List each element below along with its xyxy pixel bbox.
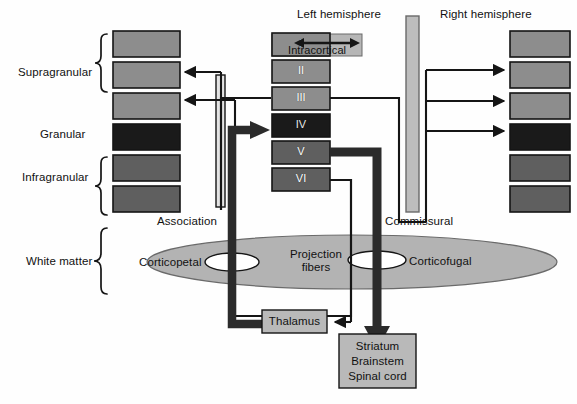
center-layer-6 <box>272 168 330 191</box>
right-block-1 <box>510 31 570 57</box>
center-layer-3 <box>272 87 330 110</box>
side-label-white-matter: White matter <box>26 255 92 267</box>
association-label: Association <box>157 215 217 227</box>
right-hemisphere-title: Right hemisphere <box>440 8 532 20</box>
left-block-5 <box>113 155 180 181</box>
subcortical-label-brainstem: Brainstem <box>339 354 416 369</box>
brace-group <box>94 34 107 294</box>
projection-fibers-label-line2: fibers <box>272 261 360 274</box>
right-block-2 <box>510 62 570 88</box>
side-label-infragranular: Infragranular <box>22 171 89 183</box>
intracortical-label: Intracortical <box>288 44 346 56</box>
side-label-granular: Granular <box>40 128 86 140</box>
brace-supragranular <box>95 34 107 92</box>
left-hemisphere-title: Left hemisphere <box>297 8 381 20</box>
subcortical-label-striatum: Striatum <box>339 339 416 354</box>
left-block-4 <box>113 124 180 150</box>
brace-white-matter <box>94 228 107 294</box>
left-block-6 <box>113 186 180 212</box>
commissural-label: Commissural <box>385 215 453 227</box>
side-label-supragranular: Supragranular <box>18 66 92 78</box>
projection-fibers-label-line1: Projection <box>272 248 360 261</box>
center-layer-4 <box>272 114 330 137</box>
commissural-tract-bar <box>406 16 419 212</box>
right-block-3 <box>510 93 570 119</box>
corticopetal-label: Corticopetal <box>139 256 202 268</box>
center-cortex-column <box>272 33 362 191</box>
left-block-1 <box>113 31 180 57</box>
right-block-5 <box>510 155 570 181</box>
right-block-4 <box>510 124 570 150</box>
center-layer-5 <box>272 141 330 164</box>
left-block-3 <box>113 93 180 119</box>
brace-infragranular <box>95 157 107 215</box>
left-cortex-column <box>113 31 180 212</box>
diagram-canvas: Left hemisphere Right hemisphere Supragr… <box>0 0 577 404</box>
thalamus-label: Thalamus <box>262 315 327 327</box>
connectivity-svg <box>0 0 577 404</box>
layerIV-arrowhead <box>250 121 270 139</box>
left-block-2 <box>113 62 180 88</box>
corticofugal-label: Corticofugal <box>409 255 472 267</box>
right-cortex-column <box>510 31 570 212</box>
right-block-6 <box>510 186 570 212</box>
center-layer-2 <box>272 60 330 83</box>
subcortical-label-spinal-cord: Spinal cord <box>337 369 418 384</box>
